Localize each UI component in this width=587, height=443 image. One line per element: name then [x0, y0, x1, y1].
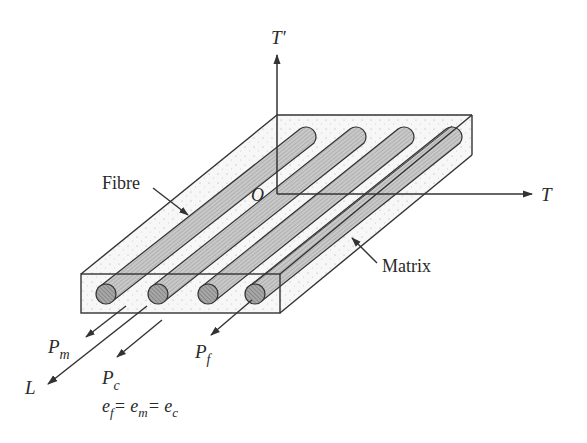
- pf-label: Pf: [194, 341, 213, 367]
- pc-label: Pc: [101, 367, 121, 393]
- fibre-end: [96, 284, 116, 304]
- composite-lamina-diagram: T' T O L Fibre Matrix Pm Pc Pf ef= em= e…: [0, 0, 587, 443]
- axis-l-label: L: [24, 377, 36, 398]
- origin-label: O: [251, 185, 264, 205]
- iso-strain-equation: ef= em= ec: [102, 396, 178, 420]
- fibre-end: [198, 284, 218, 304]
- fibre-label: Fibre: [102, 173, 140, 193]
- matrix-label: Matrix: [382, 256, 431, 276]
- load-arrow-pc: [117, 320, 162, 357]
- pm-label: Pm: [47, 336, 70, 362]
- fibre-end: [245, 284, 265, 304]
- axis-t-prime-label: T': [271, 27, 287, 48]
- axis-t-label: T: [541, 184, 553, 205]
- fibre-end: [148, 284, 168, 304]
